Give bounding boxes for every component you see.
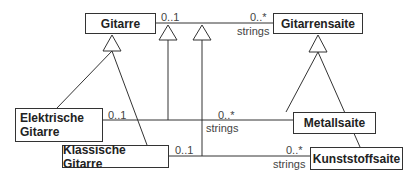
generalization-triangle-assoc-2	[193, 25, 211, 40]
generalization-triangle-gitarre	[103, 35, 121, 51]
generalization-line-klassische	[112, 51, 147, 145]
role-strings-metallsaite: strings	[206, 123, 238, 134]
multiplicity-kunststoffsaite: 0..*	[286, 145, 303, 156]
generalization-triangle-gitarrensaite	[309, 35, 327, 52]
multiplicity-gitarre: 0..1	[161, 12, 179, 23]
class-klassische-gitarre-label: Klassische Gitarre	[63, 143, 168, 171]
class-elektrische-gitarre-label-line2: Gitarre	[20, 125, 59, 139]
class-kunststoffsaite[interactable]: Kunststoffsaite	[310, 147, 403, 170]
class-kunststoffsaite-label: Kunststoffsaite	[313, 152, 400, 166]
role-strings-kunststoffsaite: strings	[273, 159, 305, 170]
multiplicity-klassische-gitarre: 0..1	[175, 145, 193, 156]
class-elektrische-gitarre[interactable]: Elektrische Gitarre	[15, 108, 103, 142]
class-gitarrensaite[interactable]: Gitarrensaite	[273, 13, 363, 34]
class-gitarrensaite-label: Gitarrensaite	[281, 17, 355, 31]
class-gitarre-label: Gitarre	[101, 17, 140, 31]
class-klassische-gitarre[interactable]: Klassische Gitarre	[62, 145, 169, 168]
generalization-triangle-assoc-1	[159, 25, 177, 40]
class-elektrische-gitarre-label-line1: Elektrische	[20, 111, 84, 125]
generalization-line-elektrische	[57, 51, 112, 108]
generalization-line-metallsaite	[286, 52, 318, 112]
class-gitarre[interactable]: Gitarre	[85, 13, 156, 34]
multiplicity-elektrische-gitarre: 0..1	[108, 110, 126, 121]
multiplicity-gitarrensaite: 0..*	[250, 12, 267, 23]
role-strings-gitarrensaite: strings	[237, 26, 269, 37]
class-metallsaite[interactable]: Metallsaite	[293, 112, 376, 134]
multiplicity-metallsaite: 0..*	[218, 110, 235, 121]
class-metallsaite-label: Metallsaite	[304, 116, 365, 130]
